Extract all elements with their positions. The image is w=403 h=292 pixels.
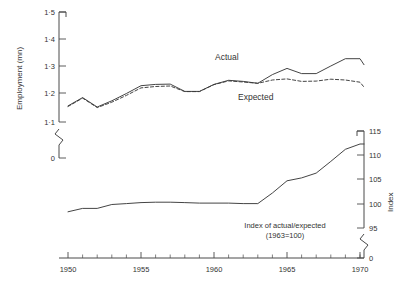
right-tick-label-105: 105 xyxy=(369,175,382,184)
left-tick-label-1-4: 1·4 xyxy=(44,35,55,44)
x-tick-label-1965: 1965 xyxy=(279,265,296,274)
chart-figure: 1·5 1·4 1·3 1·2 1·1 0 Employment (mn) 11… xyxy=(0,0,403,292)
series-label-expected: Expected xyxy=(238,92,274,102)
x-tick-label-1955: 1955 xyxy=(133,265,150,274)
series-label-actual: Actual xyxy=(215,52,239,62)
left-tick-label-1-3: 1·3 xyxy=(44,62,55,71)
x-tick-label-1960: 1960 xyxy=(206,265,223,274)
x-tick-label-1970: 1970 xyxy=(352,265,369,274)
right-axis-title: Index xyxy=(386,192,395,212)
right-tick-label-0: 0 xyxy=(369,254,373,263)
index-caption-line2: (1963=100) xyxy=(266,231,305,240)
index-caption-line1: Index of actual/expected xyxy=(244,221,325,230)
chart-background xyxy=(0,0,403,292)
right-tick-label-95: 95 xyxy=(369,224,377,233)
x-tick-label-1950: 1950 xyxy=(60,265,77,274)
left-axis-title: Employment (mn) xyxy=(15,47,24,110)
left-tick-label-0: 0 xyxy=(51,154,55,163)
right-tick-label-100: 100 xyxy=(369,200,382,209)
left-tick-label-1-5: 1·5 xyxy=(44,8,55,17)
left-tick-label-1-2: 1·2 xyxy=(44,89,55,98)
left-tick-label-1-1: 1·1 xyxy=(44,118,55,127)
right-tick-label-110: 110 xyxy=(369,151,381,160)
right-tick-label-115: 115 xyxy=(369,127,381,136)
